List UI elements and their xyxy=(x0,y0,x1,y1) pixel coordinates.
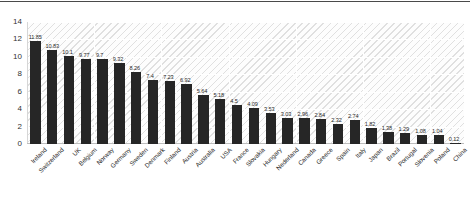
bar-slot xyxy=(249,22,259,144)
bar[interactable] xyxy=(81,59,91,144)
bar[interactable] xyxy=(64,56,74,144)
bar[interactable] xyxy=(198,95,208,144)
bar-slot xyxy=(30,22,40,144)
bar-value-label: 4.5 xyxy=(230,98,237,104)
bar[interactable] xyxy=(383,132,393,144)
bar-slot xyxy=(165,22,175,144)
bar-slot xyxy=(148,22,158,144)
bar-value-label: 5.18 xyxy=(214,92,225,98)
bar-chart: 02468101214 11.8510.8310.19.779.79.328.2… xyxy=(0,0,470,199)
bar[interactable] xyxy=(148,80,158,144)
bar-slot xyxy=(316,22,326,144)
bar-slot xyxy=(47,22,57,144)
bar[interactable] xyxy=(400,133,410,144)
bar[interactable] xyxy=(350,120,360,144)
bar-slot xyxy=(97,22,107,144)
bar-slot xyxy=(131,22,141,144)
y-axis-tick-4: 4 xyxy=(0,105,22,113)
bar[interactable] xyxy=(97,59,107,144)
bar-slot xyxy=(333,22,343,144)
bar-slot xyxy=(299,22,309,144)
bar-value-label: 9.32 xyxy=(113,56,124,62)
bar-slot xyxy=(81,22,91,144)
bar-value-label: 4.09 xyxy=(247,101,258,107)
bar-value-label: 1.29 xyxy=(398,126,409,132)
figure-top-rule xyxy=(0,1,470,2)
bar-slot xyxy=(282,22,292,144)
bar-value-label: 2.74 xyxy=(348,113,359,119)
bar-slot xyxy=(181,22,191,144)
bar-value-label: 1.04 xyxy=(432,128,443,134)
bar-value-label: 10.83 xyxy=(45,43,59,49)
bar[interactable] xyxy=(333,124,343,144)
x-axis-category-labels: IrelandSwitzerlandUKBelgiumNorwayGermany… xyxy=(27,146,464,199)
bar[interactable] xyxy=(47,50,57,144)
bar-slot xyxy=(232,22,242,144)
bar-slot xyxy=(64,22,74,144)
bar-value-label: 7.23 xyxy=(163,74,174,80)
bar-value-label: 11.85 xyxy=(29,34,42,40)
bar-slot xyxy=(350,22,360,144)
bar-value-label: 0.12 xyxy=(449,136,460,142)
bar[interactable] xyxy=(282,118,292,144)
bar-value-label: 1.08 xyxy=(415,128,426,134)
bar-value-label: 3.03 xyxy=(281,111,292,117)
y-axis-tick-12: 12 xyxy=(0,35,22,43)
bar-value-label: 1.82 xyxy=(365,121,376,127)
y-axis-tick-0: 0 xyxy=(0,140,22,148)
bar[interactable] xyxy=(181,84,191,144)
bar-series: 11.8510.8310.19.779.79.328.267.47.236.92… xyxy=(27,22,464,144)
bar[interactable] xyxy=(450,143,460,144)
bar-slot xyxy=(114,22,124,144)
bar-value-label: 9.77 xyxy=(79,52,90,58)
bar[interactable] xyxy=(299,118,309,144)
bar[interactable] xyxy=(316,119,326,144)
bar-value-label: 6.92 xyxy=(180,77,191,83)
y-axis-tick-8: 8 xyxy=(0,70,22,78)
bar[interactable] xyxy=(366,128,376,144)
bar[interactable] xyxy=(249,108,259,144)
bar-value-label: 8.26 xyxy=(130,65,141,71)
bar[interactable] xyxy=(417,135,427,144)
bar[interactable] xyxy=(30,41,40,144)
bar[interactable] xyxy=(114,63,124,144)
y-axis-tick-6: 6 xyxy=(0,88,22,96)
bar-slot xyxy=(450,22,460,144)
bar-value-label: 9.7 xyxy=(96,52,103,58)
bar-value-label: 2.32 xyxy=(331,117,342,123)
bar-value-label: 10.1 xyxy=(62,49,73,55)
bar-slot xyxy=(434,22,444,144)
bar[interactable] xyxy=(215,99,225,144)
bar-value-label: 2.84 xyxy=(314,112,325,118)
bar-value-label: 2.96 xyxy=(298,111,309,117)
bar[interactable] xyxy=(434,135,444,144)
bar-slot xyxy=(266,22,276,144)
bar[interactable] xyxy=(165,81,175,144)
bar-value-label: 1.38 xyxy=(382,125,393,131)
bar[interactable] xyxy=(232,105,242,144)
bar[interactable] xyxy=(131,72,141,144)
bar[interactable] xyxy=(266,113,276,144)
bar-value-label: 3.53 xyxy=(264,106,275,112)
bar-slot xyxy=(417,22,427,144)
y-axis-tick-14: 14 xyxy=(0,18,22,26)
bar-slot xyxy=(198,22,208,144)
y-axis-tick-10: 10 xyxy=(0,53,22,61)
y-axis-tick-2: 2 xyxy=(0,123,22,131)
bar-value-label: 7.4 xyxy=(146,73,153,79)
bar-slot xyxy=(215,22,225,144)
bar-value-label: 5.64 xyxy=(197,88,208,94)
